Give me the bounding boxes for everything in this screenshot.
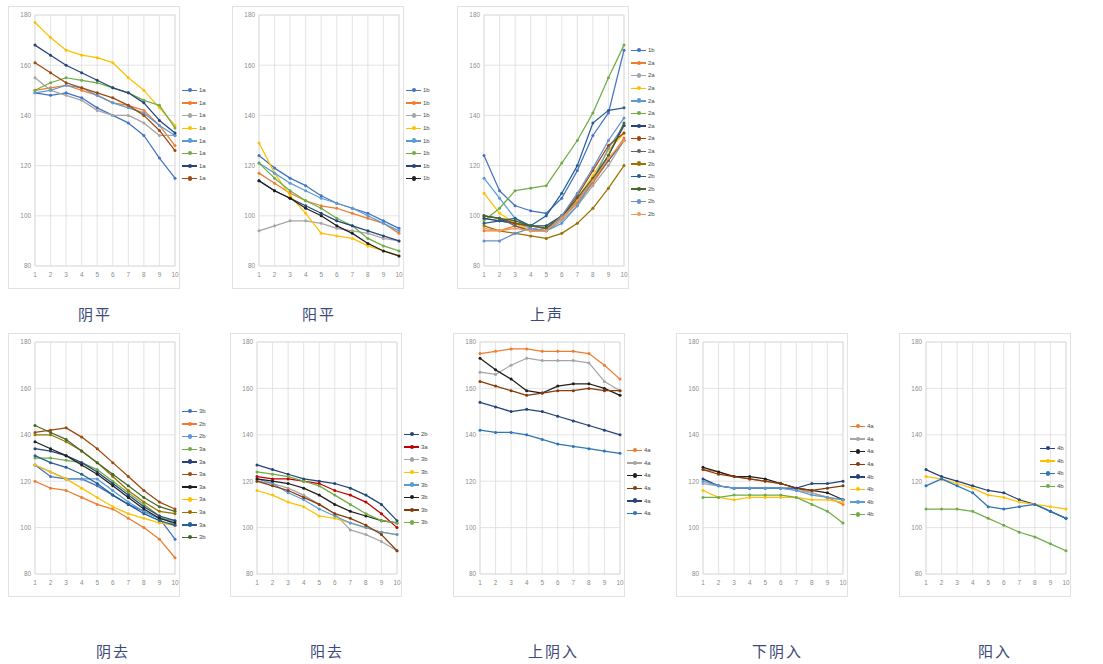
legend-item[interactable]: 1a xyxy=(182,97,206,110)
legend-item[interactable]: 4a xyxy=(850,433,874,446)
legend-item[interactable]: 1a xyxy=(182,147,206,160)
x-axis-tick-label: 8 xyxy=(364,579,368,586)
legend-item[interactable]: 1b xyxy=(406,122,430,135)
legend-item[interactable]: 4a xyxy=(627,482,651,495)
legend-item[interactable]: 4b xyxy=(850,508,874,521)
series-marker xyxy=(623,164,626,167)
legend-item[interactable]: 2b xyxy=(631,183,655,196)
legend-item[interactable]: 2a xyxy=(631,82,655,95)
legend-item[interactable]: 3a xyxy=(182,518,206,531)
legend-item[interactable]: 3b xyxy=(182,531,206,544)
series-marker xyxy=(127,484,130,487)
legend-item[interactable]: 3a xyxy=(182,455,206,468)
legend-item[interactable]: 1b xyxy=(406,84,430,97)
legend-item[interactable]: 4a xyxy=(627,457,651,470)
series-marker xyxy=(591,167,594,170)
legend-item[interactable]: 2a xyxy=(631,107,655,120)
legend-item[interactable]: 3b xyxy=(404,491,428,504)
series-marker xyxy=(623,121,626,124)
series-marker xyxy=(396,521,399,524)
legend-item[interactable]: 4a xyxy=(850,420,874,433)
legend-item[interactable]: 1a xyxy=(182,84,206,97)
legend-item[interactable]: 3b xyxy=(404,453,428,466)
legend-item[interactable]: 4b xyxy=(850,470,874,483)
legend-item[interactable]: 4a xyxy=(627,494,651,507)
legend-item-label: 2a xyxy=(648,110,655,116)
legend-item[interactable]: 4b xyxy=(850,496,874,509)
legend-item[interactable]: 3a xyxy=(404,441,428,454)
legend-item[interactable]: 3b xyxy=(404,466,428,479)
legend-item[interactable]: 2a xyxy=(631,57,655,70)
legend-item[interactable]: 1b xyxy=(406,147,430,160)
series-marker xyxy=(925,508,928,511)
series-marker xyxy=(619,433,622,436)
x-axis-tick-label: 6 xyxy=(333,579,337,586)
legend-item[interactable]: 4b xyxy=(850,483,874,496)
legend-item[interactable]: 2b xyxy=(182,418,206,431)
legend-item[interactable]: 2b xyxy=(631,208,655,221)
series-marker xyxy=(382,244,385,247)
legend-item[interactable]: 4a xyxy=(627,444,651,457)
legend-item[interactable]: 3a xyxy=(182,493,206,506)
x-axis-tick-label: 2 xyxy=(273,271,277,278)
legend-item[interactable]: 3a xyxy=(182,468,206,481)
legend-item[interactable]: 3b xyxy=(182,405,206,418)
legend-item[interactable]: 2b xyxy=(631,195,655,208)
legend-item[interactable]: 2a xyxy=(631,145,655,158)
chart-panel-2: 8010012014016018012345678910 xyxy=(232,6,404,289)
legend-item[interactable]: 1b xyxy=(631,44,655,57)
series-marker xyxy=(987,505,990,508)
legend-item[interactable]: 1b xyxy=(406,134,430,147)
legend-item[interactable]: 1b xyxy=(406,97,430,110)
series-marker xyxy=(158,134,161,137)
legend-item[interactable]: 4b xyxy=(1040,480,1064,493)
legend-item[interactable]: 2b xyxy=(404,428,428,441)
legend-item[interactable]: 2a xyxy=(631,94,655,107)
plot-frame xyxy=(484,15,624,266)
x-axis-tick-label: 7 xyxy=(1018,579,1022,586)
legend-marker-icon xyxy=(627,472,642,479)
legend-item[interactable]: 1b xyxy=(406,172,430,185)
legend-item[interactable]: 3a xyxy=(182,506,206,519)
legend-item[interactable]: 2b xyxy=(631,170,655,183)
legend-item-label: 2a xyxy=(648,123,655,129)
legend-item[interactable]: 2b xyxy=(631,157,655,170)
legend-item[interactable]: 4a xyxy=(627,507,651,520)
series-marker xyxy=(158,119,161,122)
legend-marker-icon xyxy=(631,185,646,192)
legend-item[interactable]: 1a xyxy=(182,109,206,122)
legend-marker-icon xyxy=(404,481,419,488)
x-axis-tick-label: 10 xyxy=(839,579,847,586)
series-marker xyxy=(256,470,259,473)
legend-item[interactable]: 1b xyxy=(406,109,430,122)
legend-item[interactable]: 2b xyxy=(182,430,206,443)
legend-item[interactable]: 3a xyxy=(182,481,206,494)
x-axis-tick-label: 5 xyxy=(95,579,99,586)
legend-item[interactable]: 3a xyxy=(182,443,206,456)
legend-item[interactable]: 1a xyxy=(182,172,206,185)
legend-item[interactable]: 1a xyxy=(182,134,206,147)
series-marker xyxy=(49,54,52,57)
series-marker xyxy=(174,538,177,541)
legend-item-label: 1a xyxy=(199,150,206,156)
series-marker xyxy=(498,239,501,242)
legend-item[interactable]: 2a xyxy=(631,69,655,82)
legend-item[interactable]: 4a xyxy=(627,469,651,482)
x-axis-tick-label: 7 xyxy=(127,579,131,586)
legend-item[interactable]: 4a xyxy=(850,458,874,471)
legend-item[interactable]: 3b xyxy=(404,478,428,491)
data-series-2a-6 xyxy=(483,124,626,227)
series-marker xyxy=(273,182,276,185)
legend-item[interactable]: 4b xyxy=(1040,442,1064,455)
legend-item[interactable]: 1b xyxy=(406,160,430,173)
legend-item[interactable]: 4b xyxy=(1040,455,1064,468)
legend-item[interactable]: 2a xyxy=(631,120,655,133)
legend-item[interactable]: 1a xyxy=(182,122,206,135)
legend-item[interactable]: 4a xyxy=(850,445,874,458)
legend-item[interactable]: 1a xyxy=(182,160,206,173)
legend-item[interactable]: 3b xyxy=(404,516,428,529)
legend-item[interactable]: 3b xyxy=(404,504,428,517)
legend-item[interactable]: 2a xyxy=(631,132,655,145)
series-marker xyxy=(158,104,161,107)
legend-item[interactable]: 4b xyxy=(1040,467,1064,480)
